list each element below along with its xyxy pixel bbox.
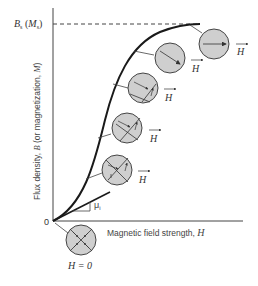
zero-field-label: H = 0 [67, 260, 92, 271]
leader-line [134, 51, 154, 55]
y-axis-label: Flux density, B (or magnetization, M) [32, 62, 42, 200]
domain-circle-stage-3 [128, 73, 158, 103]
svg-text:H: H [149, 133, 158, 144]
domain-circle-stage-2 [112, 113, 142, 143]
domain-circle-h0 [66, 225, 96, 255]
initial-permeability-label: μi [94, 200, 101, 211]
field-label-stage-2: H [149, 130, 161, 144]
saturation-label: Bs (Ms) [14, 18, 42, 30]
field-label-stage-4: H [191, 60, 203, 74]
svg-text:H: H [191, 63, 200, 74]
origin-label: 0 [44, 217, 49, 227]
field-label-stage-3: H [164, 89, 176, 103]
svg-text:H: H [164, 92, 173, 103]
domain-circle-stage-5 [199, 29, 229, 59]
field-label-stage-5: H [236, 44, 248, 57]
magnetization-diagram: H H H H H 0 Bs (Ms) Flux density, B (or … [0, 0, 258, 286]
initial-permeability-line [53, 192, 110, 221]
field-label-stage-1: H [138, 171, 150, 185]
domain-circle-stage-4 [155, 43, 185, 73]
svg-text:H: H [138, 174, 147, 185]
domain-circle-stage-1 [102, 155, 132, 185]
svg-text:H: H [236, 46, 245, 57]
leader-line [55, 223, 68, 233]
x-axis-label: Magnetic field strength, H [107, 227, 205, 238]
leader-line [190, 25, 202, 33]
